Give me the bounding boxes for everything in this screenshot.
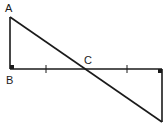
point-label-c: C — [84, 55, 92, 66]
point-label-a: A — [5, 3, 12, 14]
diagram-canvas — [0, 0, 165, 134]
geometry-diagram: A B C — [0, 0, 165, 134]
right-angle-marker-b — [10, 65, 14, 69]
point-label-b: B — [6, 75, 13, 86]
right-angle-marker-d — [158, 69, 162, 73]
